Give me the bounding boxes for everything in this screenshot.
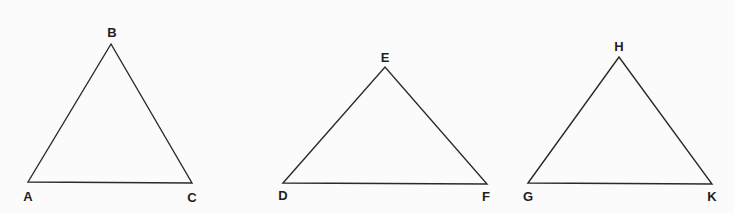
triangle-abc: A B C (23, 25, 197, 205)
triangle-abc-outline (28, 44, 192, 183)
vertex-label-f: F (482, 189, 490, 204)
triangle-ghk: G H K (523, 39, 717, 204)
vertex-label-c: C (187, 190, 197, 205)
vertex-label-d: D (278, 188, 287, 203)
vertex-label-h: H (614, 39, 623, 54)
vertex-label-a: A (23, 189, 33, 204)
triangles-diagram: A B C D E F G H K (0, 0, 734, 213)
triangle-def: D E F (278, 50, 490, 204)
vertex-label-e: E (381, 50, 390, 65)
triangle-def-outline (283, 67, 487, 184)
vertex-label-g: G (523, 189, 533, 204)
vertex-label-b: B (107, 25, 116, 40)
triangle-ghk-outline (528, 57, 712, 184)
vertex-label-k: K (707, 189, 717, 204)
